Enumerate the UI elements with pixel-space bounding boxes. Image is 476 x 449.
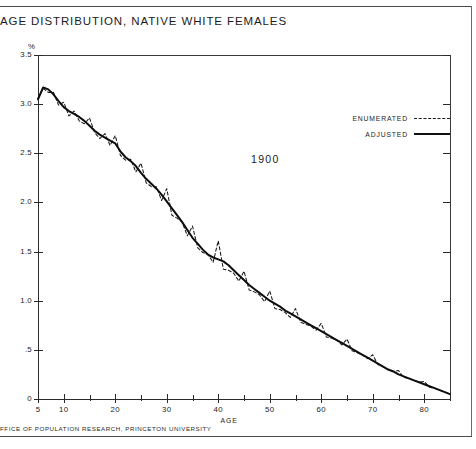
y-tick-label: 1.5 [6, 247, 32, 256]
x-tick-label: 30 [155, 405, 179, 414]
page-rule-bottom [0, 436, 472, 437]
legend-item-adjusted: ADJUSTED [330, 126, 450, 142]
legend-label-adjusted: ADJUSTED [365, 131, 408, 138]
series-lines [38, 55, 451, 400]
y-tick-label: 3.0 [6, 99, 32, 108]
x-tick-label: 10 [52, 405, 76, 414]
x-axis-name: AGE [221, 417, 238, 424]
plot-area: 0.51.01.52.02.53.03.5 51020304050607080A… [38, 55, 451, 400]
y-tick-label: 2.0 [6, 197, 32, 206]
legend: ENUMERATED ADJUSTED [330, 110, 450, 142]
figure-title: AGE DISTRIBUTION, NATIVE WHITE FEMALES [0, 15, 287, 27]
legend-label-enumerated: ENUMERATED [352, 115, 408, 122]
x-tick-label: 5 [26, 405, 50, 414]
page-rule-top [0, 6, 472, 7]
legend-item-enumerated: ENUMERATED [330, 110, 450, 126]
y-tick-label: .5 [6, 345, 32, 354]
x-tick-label: 20 [103, 405, 127, 414]
x-tick-label: 60 [309, 405, 333, 414]
figure-page: AGE DISTRIBUTION, NATIVE WHITE FEMALES %… [0, 0, 476, 449]
x-tick-label: 50 [258, 405, 282, 414]
y-tick-label: 3.5 [6, 50, 32, 59]
y-tick-label: 0 [6, 394, 32, 403]
x-tick-label: 40 [206, 405, 230, 414]
y-tick-label: 1.0 [6, 296, 32, 305]
legend-swatch-dashed-icon [414, 115, 450, 121]
legend-swatch-solid-icon [414, 131, 450, 137]
x-tick-label: 80 [412, 405, 436, 414]
page-rule-right [471, 6, 472, 436]
y-tick-label: 2.5 [6, 148, 32, 157]
figure-footer: FFICE OF POPULATION RESEARCH, PRINCETON … [0, 425, 212, 432]
x-tick-label: 70 [361, 405, 385, 414]
